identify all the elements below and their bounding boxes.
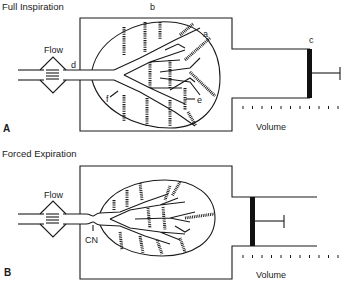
panel-b-flowmeter [40,201,66,237]
panel-b-piston [250,197,255,246]
panel-b-label: B [4,267,11,278]
panel-a-chamber-wall [80,18,310,131]
panel-a-lung-outline [92,22,220,128]
lung-model-diagram: Full Inspiration A Volume Flow [0,0,352,289]
label-f: f [106,94,109,104]
label-c: c [309,35,314,45]
panel-a-flowmeter [40,57,66,93]
panel-b-title: Forced Expiration [2,148,76,159]
panel-a-flow-label: Flow [44,45,64,55]
panel-a-piston [307,49,312,98]
label-b: b [150,2,155,12]
panel-a-label: A [3,123,10,134]
panel-b-bronchial-tree [100,194,195,244]
label-cn: CN [85,235,98,245]
label-a: a [203,29,208,39]
panel-b-volume-label: Volume [256,270,286,280]
panel-b-alveoli [114,182,214,254]
panel-a-alveoli [124,22,215,126]
panel-a-volume-scale [243,106,338,109]
panel-a-bronchial-tree [114,28,200,126]
panel-b-volume-scale [243,255,338,258]
panel-b-airway-top [63,213,100,216]
panel-b-chamber-wall [80,166,317,279]
panel-a-volume-label: Volume [256,122,286,132]
label-f-pointer [110,91,118,97]
label-e: e [197,95,202,105]
label-d: d [71,60,76,70]
panel-a-title: Full Inspiration [2,1,64,12]
panel-a: Full Inspiration A Volume Flow [2,1,340,134]
panel-b: Forced Expiration B Volume Flow [2,148,338,280]
panel-b-flow-label: Flow [44,190,64,200]
panel-b-airway-bottom [63,222,100,225]
